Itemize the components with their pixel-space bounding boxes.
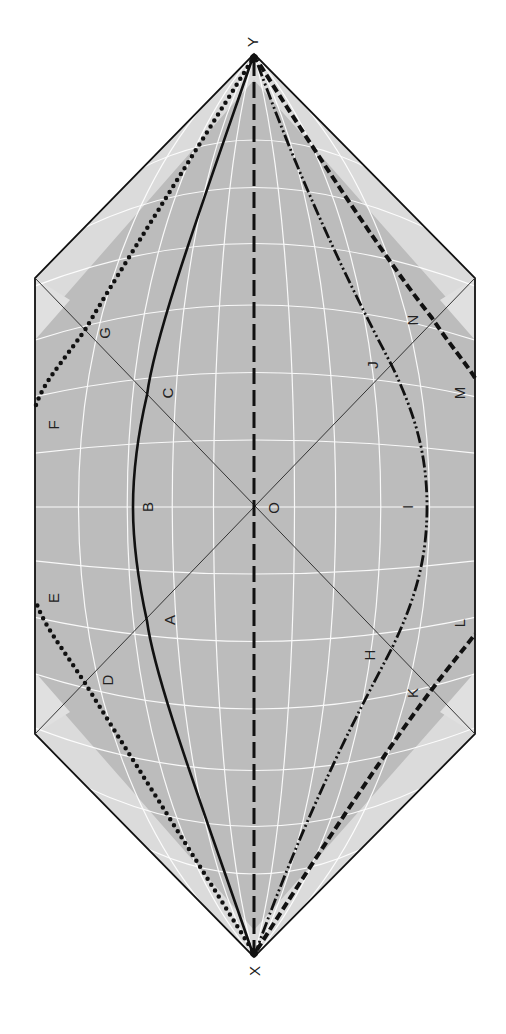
label-L: L bbox=[451, 619, 468, 627]
label-F: F bbox=[45, 420, 62, 429]
label-N: N bbox=[404, 315, 421, 326]
label-K: K bbox=[404, 688, 421, 698]
label-H: H bbox=[361, 650, 378, 661]
vertex-X-marker bbox=[250, 949, 258, 957]
label-J: J bbox=[364, 361, 381, 369]
label-Y: Y bbox=[244, 37, 261, 47]
conformal-diagram: Y X O A B C D E F G H I J K L M N bbox=[0, 0, 506, 1034]
label-M: M bbox=[451, 387, 468, 400]
label-O: O bbox=[265, 502, 282, 514]
label-I: I bbox=[399, 505, 416, 509]
label-X: X bbox=[246, 966, 263, 976]
label-C: C bbox=[159, 387, 176, 398]
vertex-Y-marker bbox=[250, 54, 258, 62]
label-B: B bbox=[139, 502, 156, 512]
label-E: E bbox=[45, 593, 62, 603]
label-D: D bbox=[99, 674, 116, 685]
label-G: G bbox=[96, 327, 113, 339]
label-A: A bbox=[161, 615, 178, 625]
